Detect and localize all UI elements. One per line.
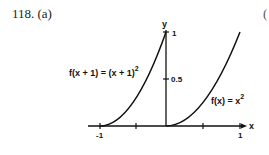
function-graph: y 1 0.5 x -1 1 f(x + 1) = (x + 1)2 f(x) … bbox=[0, 0, 269, 155]
left-curve-label: f(x + 1) = (x + 1)2 bbox=[69, 65, 139, 78]
x-axis-arrow-icon bbox=[241, 124, 247, 129]
curve-shifted-parabola bbox=[100, 32, 166, 126]
x-tick-label-1: 1 bbox=[238, 131, 243, 140]
x-tick-label-neg1: -1 bbox=[96, 131, 104, 140]
y-tick-label-1: 1 bbox=[172, 29, 177, 38]
right-curve-label: f(x) = x2 bbox=[211, 93, 244, 106]
y-axis-label: y bbox=[162, 19, 167, 29]
x-axis-label: x bbox=[249, 121, 254, 131]
y-tick-label-half: 0.5 bbox=[171, 75, 183, 84]
